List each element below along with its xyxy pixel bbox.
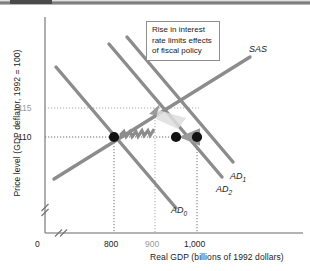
point-initial-equilibrium xyxy=(109,132,119,142)
x-tick-900: 900 xyxy=(145,239,159,249)
x-tick-origin: 0 xyxy=(35,239,40,249)
y-tick-115: 115 xyxy=(18,103,32,113)
shadow-wedge xyxy=(156,110,186,129)
y-axis-title: Price level (GDP deflator, 1992 = 100) xyxy=(12,38,22,208)
chart-figure: Price level (GDP deflator, 1992 = 100) R… xyxy=(0,0,310,271)
x-tick-1000: 1,000 xyxy=(184,239,205,249)
point-intermediate-equilibrium xyxy=(192,132,202,142)
curve-label-ad1-base: AD xyxy=(230,171,243,181)
annotation-note: Rise in interest rate limits effects of … xyxy=(146,21,220,61)
y-tick-110: 110 xyxy=(18,132,32,142)
point-new-equilibrium xyxy=(171,132,181,142)
curve-label-sas: SAS xyxy=(249,44,267,54)
curve-label-ad2: AD2 xyxy=(216,184,232,196)
curve-label-ad0-sub: 0 xyxy=(184,210,188,217)
curve-label-ad2-base: AD xyxy=(216,184,229,194)
x-axis-title: Real GDP (billions of 1992 dollars) xyxy=(150,252,284,262)
x-tick-800: 800 xyxy=(104,239,118,249)
curve-sas xyxy=(54,57,250,179)
curve-label-ad2-sub: 2 xyxy=(229,189,233,196)
curve-label-ad1: AD1 xyxy=(230,171,246,183)
curve-ad2 xyxy=(109,44,222,177)
curve-label-ad0: AD0 xyxy=(171,205,187,217)
curve-label-ad0-base: AD xyxy=(171,205,184,215)
curve-label-ad1-sub: 1 xyxy=(243,176,247,183)
